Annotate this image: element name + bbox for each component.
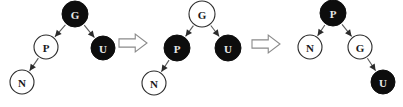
- edge-arrowhead-icon: [369, 64, 375, 71]
- tree-node-n[interactable]: N: [10, 70, 34, 94]
- tree-node-u[interactable]: U: [91, 36, 115, 60]
- transition-arrow-right-icon: [119, 34, 147, 52]
- tree-node-g[interactable]: G: [189, 1, 215, 27]
- tree-node-u[interactable]: U: [371, 70, 395, 94]
- tree-node-n[interactable]: N: [142, 71, 166, 95]
- transition-arrow-right-icon: [252, 35, 280, 53]
- node-circle[interactable]: [142, 71, 166, 95]
- tree-node-g[interactable]: G: [62, 1, 88, 27]
- tree-node-u[interactable]: U: [215, 35, 241, 61]
- edge-arrowhead-icon: [30, 64, 36, 71]
- edge-g-to-u: [367, 58, 375, 70]
- tree-diagram-canvas: GPUNGPUNPNGU: [0, 0, 403, 107]
- tree-node-p[interactable]: P: [164, 35, 190, 61]
- edge-arrowhead-icon: [345, 29, 352, 36]
- node-circle[interactable]: [371, 70, 395, 94]
- node-circle[interactable]: [164, 35, 190, 61]
- edge-p-to-n: [318, 25, 325, 36]
- tree-step-2: GPUN: [142, 1, 241, 95]
- edge-g-to-p: [55, 25, 66, 37]
- edge-arrowhead-icon: [213, 29, 219, 36]
- node-circle[interactable]: [34, 35, 58, 59]
- edge-arrowhead-icon: [186, 29, 192, 36]
- tree-node-g[interactable]: G: [348, 35, 372, 59]
- node-circle[interactable]: [91, 36, 115, 60]
- node-circle[interactable]: [215, 35, 241, 61]
- node-circle[interactable]: [320, 0, 346, 26]
- red-black-tree-figure: GPUNGPUNPNGU: [0, 0, 403, 107]
- node-circle[interactable]: [348, 35, 372, 59]
- node-circle[interactable]: [10, 70, 34, 94]
- tree-node-p[interactable]: P: [34, 35, 58, 59]
- node-circle[interactable]: [189, 1, 215, 27]
- edge-p-to-n: [161, 60, 169, 72]
- edge-arrowhead-icon: [161, 65, 167, 72]
- edge-p-to-n: [30, 58, 39, 71]
- tree-step-1: GPUN: [10, 1, 115, 94]
- tree-node-n[interactable]: N: [298, 35, 322, 59]
- edge-p-to-g: [342, 24, 352, 36]
- edge-g-to-u: [211, 26, 219, 37]
- node-circle[interactable]: [62, 1, 88, 27]
- tree-node-p[interactable]: P: [320, 0, 346, 26]
- edge-g-to-u: [84, 25, 94, 37]
- edge-arrowhead-icon: [318, 29, 324, 36]
- node-circle[interactable]: [298, 35, 322, 59]
- edge-g-to-p: [186, 26, 194, 37]
- tree-step-3: PNGU: [298, 0, 395, 94]
